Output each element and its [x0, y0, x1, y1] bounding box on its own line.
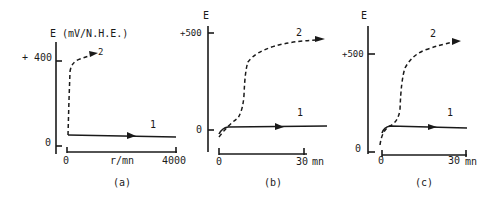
- panel-b-ylabel: E: [203, 10, 209, 21]
- panel-c-curve-1-arrow-icon: [428, 124, 437, 130]
- panel-b-curve-1-label: 1: [297, 107, 303, 118]
- panel-b-curve-2-label: 2: [296, 27, 302, 38]
- panel-a-ytick-zero-label: 0: [45, 137, 51, 148]
- panel-a: E (mV/N.H.E.) + 400 0 0 r/mn 4000 1 2 (a…: [22, 28, 186, 188]
- panel-b-xunit: mn: [312, 156, 324, 167]
- panel-a-caption: (a): [113, 177, 131, 188]
- panel-c-curve-1-label: 1: [447, 107, 453, 118]
- panel-b-curve-2-arrow-icon: [315, 36, 325, 42]
- panel-b-curve-2: [219, 40, 318, 137]
- panel-b-xtick-start-label: 0: [216, 156, 222, 167]
- panel-a-ylabel: E (mV/N.H.E.): [50, 28, 128, 39]
- panel-c-curve-2-label: 2: [430, 28, 436, 39]
- panel-a-curve-2-arrow-icon: [89, 51, 98, 57]
- panel-c-ytick-top-label: +500: [342, 49, 364, 59]
- panel-a-curve-1: [68, 135, 176, 137]
- panel-a-curve-2-label: 2: [98, 47, 103, 57]
- panel-a-xunit: r/mn: [110, 155, 134, 166]
- panel-a-curve-1-arrow-icon: [127, 132, 136, 139]
- panel-b: E +500 0 0 30 mn 1 2 (b): [180, 10, 327, 188]
- panel-a-curve-1-label: 1: [150, 119, 156, 130]
- panel-c-ytick-zero-label: 0: [355, 143, 361, 154]
- panel-a-ytick-top-label: + 400: [22, 52, 52, 63]
- panel-c-caption: (c): [415, 177, 433, 188]
- panel-c-curve-1: [382, 126, 467, 133]
- panel-b-xtick-end-label: 30: [296, 156, 308, 167]
- panel-c-ylabel: E: [361, 10, 367, 21]
- panel-b-curve-1: [219, 126, 327, 134]
- panel-b-ytick-top-label: +500: [180, 28, 202, 38]
- panel-b-curve-1-arrow-icon: [275, 123, 284, 130]
- panel-c: E +500 0 0 30 mn 1 2 (c): [342, 10, 477, 188]
- figure-canvas: E (mV/N.H.E.) + 400 0 0 r/mn 4000 1 2 (a…: [0, 0, 500, 201]
- panel-c-xtick-end-label: 30: [448, 155, 460, 166]
- panel-a-xtick-start-label: 0: [63, 155, 69, 166]
- panel-c-curve-2-arrow-icon: [452, 38, 461, 45]
- panel-c-xtick-start-label: 0: [378, 155, 384, 166]
- panel-a-curve-2: [68, 55, 92, 135]
- panel-a-xtick-end-label: 4000: [162, 155, 186, 166]
- panel-b-caption: (b): [264, 177, 282, 188]
- panel-c-xunit: mn: [465, 156, 477, 167]
- panel-c-curve-2: [380, 42, 454, 145]
- panel-b-ytick-zero-label: 0: [196, 124, 202, 135]
